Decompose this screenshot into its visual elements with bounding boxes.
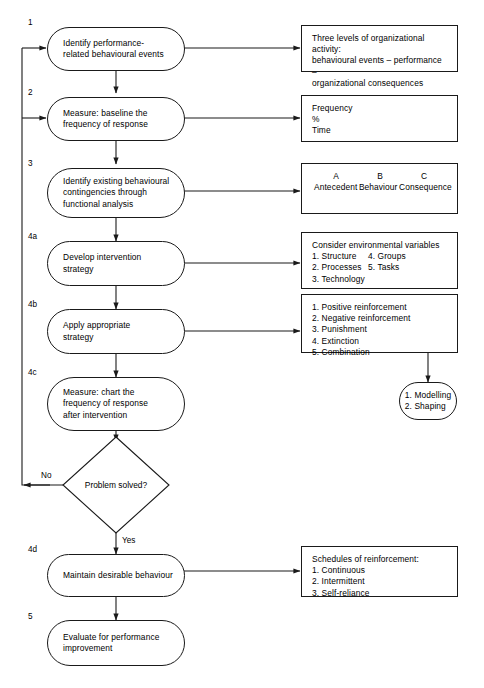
abc-header-b: B <box>358 171 402 182</box>
process-node-text: Identify performance- related behavioura… <box>63 38 164 60</box>
process-node-evaluate-performance[interactable]: Evaluate for performance improvement <box>47 620 185 666</box>
abc-term-consequence: Consequence <box>399 182 446 193</box>
side-panel-environmental-variables: Consider environmental variables 1. Stru… <box>301 232 458 289</box>
process-node-measure-baseline[interactable]: Measure: baseline the frequency of respo… <box>47 97 185 141</box>
side-panel-schedules: Schedules of reinforcement: 1. Continuou… <box>301 546 458 597</box>
step-number-5: 5 <box>28 612 33 621</box>
edge-label-yes: Yes <box>122 536 135 545</box>
side-panel-reinforcement-types: 1. Positive reinforcement 2. Negative re… <box>301 294 458 353</box>
sub-node-text: 1. Modelling 2. Shaping <box>405 390 451 412</box>
decision-label: Problem solved? <box>62 480 170 490</box>
process-node-text: Maintain desirable behaviour <box>63 570 173 581</box>
side-panel-three-levels: Three levels of organizational activity:… <box>301 25 458 72</box>
abc-header-a: A <box>314 171 358 182</box>
process-node-apply-strategy[interactable]: Apply appropriate strategy <box>47 309 185 354</box>
abc-header-c: C <box>402 171 446 182</box>
step-number-1: 1 <box>28 18 33 27</box>
process-node-text: Identify existing behavioural contingenc… <box>63 176 169 210</box>
sub-node-modelling-shaping[interactable]: 1. Modelling 2. Shaping <box>399 382 457 420</box>
env-right-1: 4. Groups <box>368 251 406 262</box>
process-node-identify-events[interactable]: Identify performance- related behavioura… <box>47 27 185 71</box>
process-node-text: Develop intervention strategy <box>63 252 141 274</box>
side-panel-text: 1. Positive reinforcement 2. Negative re… <box>312 302 410 358</box>
edge-label-no: No <box>41 471 51 480</box>
step-number-4d: 4d <box>28 545 37 554</box>
step-number-3: 3 <box>28 159 33 168</box>
process-node-text: Measure: baseline the frequency of respo… <box>63 108 148 130</box>
flowchart-canvas: 1 2 3 4a 4b 4c 4d 5 Identify performance… <box>0 0 484 688</box>
abc-term-behaviour: Behaviour <box>357 182 399 193</box>
step-number-4b: 4b <box>28 300 37 309</box>
process-node-text: Apply appropriate strategy <box>63 320 130 342</box>
env-heading: Consider environmental variables <box>312 240 448 251</box>
step-number-4a: 4a <box>28 232 37 241</box>
process-node-identify-contingencies[interactable]: Identify existing behavioural contingenc… <box>47 168 185 218</box>
env-right-2: 5. Tasks <box>368 262 406 273</box>
step-number-4c: 4c <box>28 368 37 377</box>
process-node-text: Evaluate for performance improvement <box>63 632 159 654</box>
env-left-1: 1. Structure <box>312 251 368 262</box>
abc-term-antecedent: Antecedent <box>314 182 357 193</box>
process-node-maintain-behaviour[interactable]: Maintain desirable behaviour <box>47 554 185 597</box>
process-node-text: Measure: chart the frequency of response… <box>63 387 148 421</box>
process-node-measure-after-intervention[interactable]: Measure: chart the frequency of response… <box>47 377 185 431</box>
side-panel-abc: A B C Antecedent Behaviour Consequence <box>301 163 458 214</box>
side-panel-text: Schedules of reinforcement: 1. Continuou… <box>312 554 419 599</box>
env-left-3: 3. Technology <box>312 274 368 285</box>
side-panel-text: Frequency % Time <box>312 103 352 137</box>
process-node-develop-strategy[interactable]: Develop intervention strategy <box>47 241 185 286</box>
decision-problem-solved[interactable]: Problem solved? <box>62 436 170 534</box>
side-panel-measures: Frequency % Time <box>301 95 458 142</box>
env-left-2: 2. Processes <box>312 262 368 273</box>
side-panel-text: Three levels of organizational activity:… <box>312 33 448 89</box>
step-number-2: 2 <box>28 88 33 97</box>
